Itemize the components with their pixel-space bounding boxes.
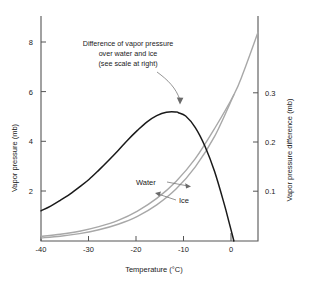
ice-curve [41,95,234,238]
y-tick-label-8: 8 [29,38,33,47]
annotation-line-3: (see scale at right) [98,59,157,68]
y-axis-title: Vapor pressure (mb) [10,123,19,192]
y2-tick-label-01: 0.1 [265,187,275,196]
x-axis-ticks [41,233,231,241]
ice-label: Ice [179,196,189,205]
annotation-line-2: over water and ice [99,49,158,58]
water-label: Water [136,178,156,187]
y-tick-label-6: 6 [29,88,33,97]
annotation-leader-line [157,72,180,100]
x-axis-title: Temperature (°C) [125,265,183,274]
y-tick-label-2: 2 [29,187,33,196]
y-tick-label-4: 4 [29,137,33,146]
x-tick-label-m40: -40 [36,245,47,254]
left-axis-ticks [41,42,46,191]
y2-tick-label-03: 0.3 [265,89,275,98]
water-arrow-head [185,183,191,188]
vapor-pressure-chart: 8 6 4 2 0.3 0.2 0.1 -40 -30 -20 -10 0 [0,0,309,296]
water-leader-line [167,182,188,186]
ice-leader-line [158,194,176,200]
y2-axis-title: Vapor pressure difference (mb) [285,98,294,202]
annotation-line-1: Difference of vapor pressure [83,39,174,48]
annotation-arrow-head [177,98,184,105]
x-tick-label-m20: -20 [131,245,142,254]
x-tick-label-m10: -10 [178,245,189,254]
chart-svg: 8 6 4 2 0.3 0.2 0.1 -40 -30 -20 -10 0 [0,0,309,296]
right-axis-ticks [253,93,258,191]
y2-tick-label-02: 0.2 [265,138,275,147]
x-tick-label-0: 0 [229,245,233,254]
difference-curve [41,112,234,241]
x-tick-label-m30: -30 [83,245,94,254]
